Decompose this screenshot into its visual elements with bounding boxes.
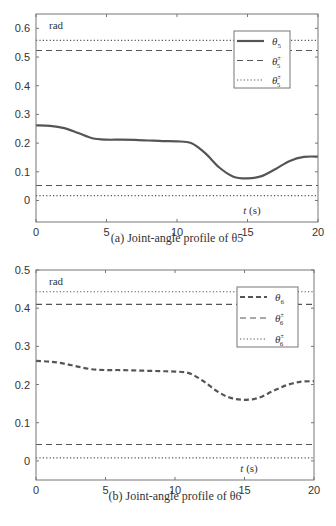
- series-line: [36, 125, 318, 178]
- legend: θ6θ±6θ±6: [237, 287, 298, 348]
- y-tick-label: 0.3: [15, 340, 30, 352]
- x-tick-label: 20: [312, 226, 324, 238]
- x-axis-label: t (s): [240, 462, 258, 475]
- y-tick-label: 0.1: [15, 417, 30, 429]
- y-tick-label: 0.2: [15, 137, 30, 149]
- x-tick-label: 15: [241, 226, 253, 238]
- y-tick-label: 0: [24, 194, 30, 206]
- x-tick-label: 5: [103, 226, 109, 238]
- y-tick-label: 0.5: [15, 264, 30, 276]
- figure-caption: (a) Joint-angle profile of θ5: [111, 231, 243, 245]
- x-tick-label: 0: [33, 484, 39, 496]
- chart-b: 0510152000.10.20.30.40.5radt (s)θ6θ±6θ±6…: [15, 264, 320, 503]
- y-tick-label: 0: [24, 455, 30, 467]
- y-tick-label: 0.5: [15, 51, 30, 63]
- y-tick-label: 0.6: [15, 22, 30, 34]
- series-line: [36, 361, 314, 400]
- y-tick-label: 0.4: [15, 80, 30, 92]
- y-tick-label: 0.4: [15, 302, 30, 314]
- y-tick-label: 0.3: [15, 108, 30, 120]
- legend: θ5θ±5θ±5: [234, 31, 290, 89]
- x-tick-label: 0: [33, 226, 39, 238]
- figure: 0510152000.10.20.30.40.50.6radt (s)θ5θ±5…: [0, 0, 336, 526]
- y-axis-label: rad: [49, 19, 64, 31]
- y-axis-label: rad: [49, 275, 64, 287]
- x-axis-label: t (s): [243, 204, 261, 217]
- chart-a: 0510152000.10.20.30.40.50.6radt (s)θ5θ±5…: [15, 14, 324, 245]
- x-tick-label: 20: [308, 484, 320, 496]
- y-tick-label: 0.1: [15, 166, 30, 178]
- y-tick-label: 0.2: [15, 379, 30, 391]
- figure-caption: (b) Joint-angle profile of θ6: [108, 489, 241, 503]
